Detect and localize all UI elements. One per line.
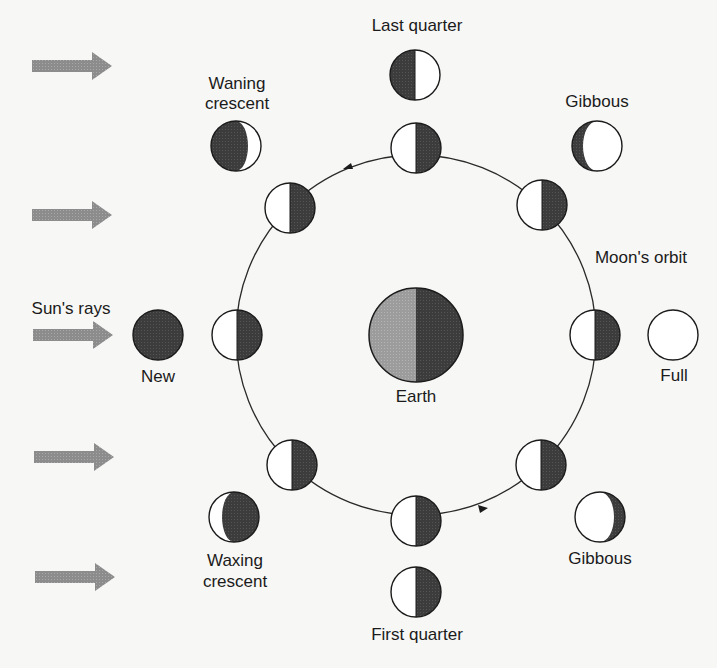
label-moons-orbit: Moon's orbit <box>586 248 696 268</box>
label-gibbous-lower: Gibbous <box>559 549 641 569</box>
sun-ray-arrow-5 <box>35 563 115 591</box>
view-last-quarter-moon <box>390 50 440 100</box>
label-full: Full <box>644 366 704 386</box>
moon-orbit-right <box>570 310 620 360</box>
earth <box>369 288 463 382</box>
moon-orbit-left <box>212 310 262 360</box>
label-new: New <box>128 367 188 387</box>
view-gibbous-lower-moon <box>575 492 625 542</box>
label-earth: Earth <box>380 387 452 407</box>
view-new-moon <box>133 310 183 360</box>
moon-orbit-upper-left <box>265 183 315 233</box>
label-last-quarter: Last quarter <box>362 16 472 36</box>
sun-ray-arrow-4 <box>34 443 114 471</box>
moon-orbit-upper-right <box>517 180 567 230</box>
view-waxing-crescent-moon <box>209 492 259 542</box>
moon-orbit-bottom <box>391 496 441 546</box>
sun-ray-arrow-3 <box>33 321 113 349</box>
moon-orbit-top <box>391 123 441 173</box>
label-waxing-crescent-line2: crescent <box>194 572 276 592</box>
moon-phases-diagram: Last quarter Waning crescent Gibbous Moo… <box>0 0 717 668</box>
label-gibbous-upper: Gibbous <box>556 92 638 112</box>
moon-orbit-lower-left <box>267 440 317 490</box>
view-first-quarter-moon <box>391 567 441 617</box>
label-waning-crescent-line1: Waning <box>196 74 278 94</box>
view-full-moon <box>648 310 698 360</box>
view-waning-crescent-moon <box>211 121 261 171</box>
moon-orbit-lower-right <box>516 440 566 490</box>
sun-ray-arrow-2 <box>32 201 112 229</box>
label-waxing-crescent-line1: Waxing <box>194 551 276 571</box>
label-waning-crescent-line2: crescent <box>196 94 278 114</box>
sun-ray-arrow-1 <box>32 52 112 80</box>
orbit-direction-arrow-bottom <box>478 505 488 513</box>
label-sun-rays: Sun's rays <box>22 299 120 319</box>
label-first-quarter: First quarter <box>362 625 472 645</box>
view-gibbous-upper-moon <box>572 121 622 171</box>
orbit-direction-arrow-top <box>343 163 353 169</box>
